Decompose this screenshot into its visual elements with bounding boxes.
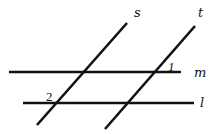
angle-2-label: 2 [46,90,53,103]
line-s [37,23,127,125]
diagram-canvas [0,0,212,134]
label-l: l [200,96,204,109]
angle-1-label: 1 [168,60,175,73]
label-m: m [194,66,206,79]
line-t [105,26,195,129]
label-t: t [198,6,203,19]
label-s: s [134,6,141,19]
